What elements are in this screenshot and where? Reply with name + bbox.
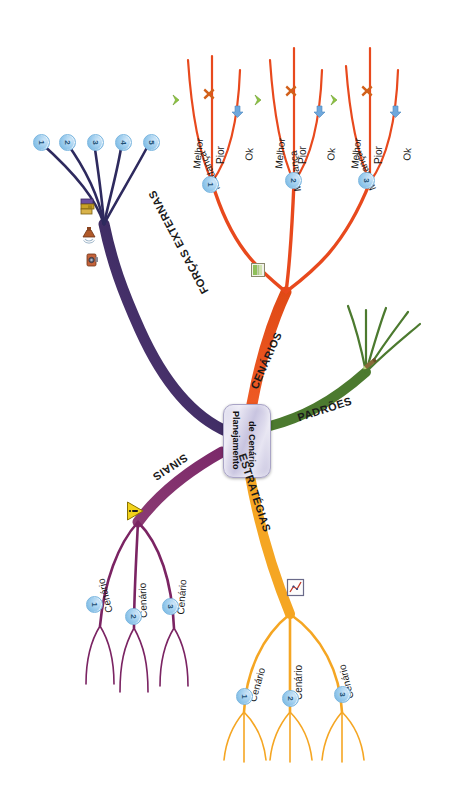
pencil-icon <box>360 352 382 374</box>
badge-forcas-2[interactable]: 2 <box>59 134 76 151</box>
green-chevron-icon <box>328 93 342 107</box>
badge-sinal-3[interactable]: 3 <box>162 598 179 615</box>
branch-estrategias[interactable] <box>224 476 364 762</box>
badge-sinal-1[interactable]: 1 <box>86 596 103 613</box>
badge-mudanca-2[interactable]: 2 <box>285 172 302 189</box>
warning-triangle-icon <box>124 500 146 522</box>
notebook-icon <box>250 262 266 278</box>
badge-estrategia-1[interactable]: 1 <box>236 688 253 705</box>
green-chevron-icon <box>252 93 266 107</box>
badge-forcas-3[interactable]: 3 <box>87 134 104 151</box>
badge-forcas-1[interactable]: 1 <box>33 134 50 151</box>
badge-mudanca-1[interactable]: 1 <box>202 176 219 193</box>
branch-sinais[interactable] <box>86 452 222 692</box>
books-icon <box>78 197 98 217</box>
badge-estrategia-2[interactable]: 2 <box>282 690 299 707</box>
branch-padroes[interactable] <box>270 306 420 426</box>
blue-down-arrow-icon <box>312 104 327 119</box>
orange-cross-icon <box>283 83 299 99</box>
chart-icon <box>286 578 305 597</box>
badge-mudanca-3[interactable]: 3 <box>358 172 375 189</box>
central-topic-line2: de Cenário <box>247 421 257 468</box>
orange-cross-icon <box>359 83 375 99</box>
blue-down-arrow-icon <box>230 104 245 119</box>
mindmap-canvas: Planejamento de Cenário FORÇAS EXTERNAS … <box>0 0 455 792</box>
badge-sinal-2[interactable]: 2 <box>125 608 142 625</box>
green-chevron-icon <box>170 93 184 107</box>
badge-forcas-5[interactable]: 5 <box>143 134 160 151</box>
branch-artwork <box>0 0 455 792</box>
orange-cross-icon <box>201 86 217 102</box>
branch-forcas-externas[interactable] <box>40 142 228 432</box>
badge-forcas-4[interactable]: 4 <box>115 134 132 151</box>
badge-estrategia-3[interactable]: 3 <box>334 686 351 703</box>
blue-down-arrow-icon <box>388 104 403 119</box>
central-topic-node[interactable]: Planejamento de Cenário <box>223 404 271 478</box>
camera-icon <box>84 252 102 270</box>
megaphone-icon <box>79 224 99 244</box>
central-topic-line1: Planejamento <box>231 411 241 470</box>
